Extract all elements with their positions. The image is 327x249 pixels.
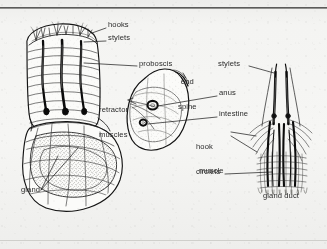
label-hook-circlets: hook circlets — [196, 126, 220, 193]
label-hook-circlets-line1: hook — [196, 143, 220, 151]
label-intestine: intestine — [219, 110, 248, 119]
label-anus: anus — [219, 89, 236, 98]
label-stylets-right: stylets — [218, 60, 240, 69]
label-muscle: muscle — [199, 167, 224, 176]
label-retractor-muscles: retractor muscles — [99, 89, 128, 156]
label-retractor-muscles-line1: retractor — [99, 106, 128, 114]
intestine-opening — [140, 120, 147, 126]
label-end-spine: end spine — [178, 61, 197, 128]
label-end-spine-line1: end — [178, 78, 197, 86]
muscle-striations — [257, 152, 307, 194]
label-proboscis: proboscis — [139, 60, 172, 69]
figure-page: hooks stylets proboscis end spine retrac… — [0, 0, 327, 249]
stylet-apparatus-detail-drawing — [250, 64, 312, 195]
hook-circlet-filaments — [250, 120, 312, 161]
label-end-spine-line2: spine — [178, 103, 197, 111]
label-stylets-left: stylets — [108, 34, 130, 43]
label-gland-duct: gland duct — [263, 192, 299, 201]
label-gland: gland — [21, 186, 40, 195]
anatomy-figure-svg — [0, 0, 327, 249]
label-hooks: hooks — [108, 21, 129, 30]
label-retractor-muscles-line2: muscles — [99, 131, 128, 139]
